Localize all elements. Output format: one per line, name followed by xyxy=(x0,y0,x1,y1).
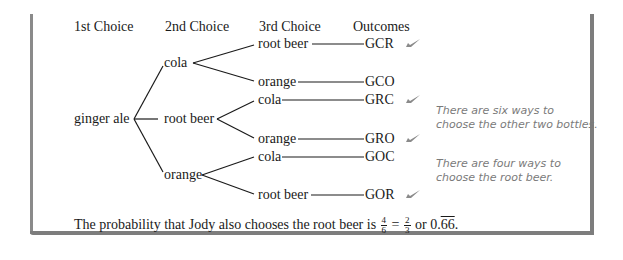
note-six-ways: There are six ways to choose the other t… xyxy=(436,104,598,132)
node-level3-root-beer: root beer xyxy=(258,36,308,52)
check-mark-icon xyxy=(405,94,421,104)
equals-sign: = xyxy=(392,217,400,232)
check-mark-icon xyxy=(405,133,421,143)
fraction-denominator: 6 xyxy=(381,226,388,235)
fraction-four-sixths: 4 6 xyxy=(381,216,388,235)
note-four-ways: There are four ways to choose the root b… xyxy=(436,157,561,185)
note-four-ways-line1: There are four ways to xyxy=(436,157,561,171)
node-level2-root-beer: root beer xyxy=(164,111,214,127)
node-level3-cola: cola xyxy=(258,92,281,108)
outcome-gor: GOR xyxy=(365,187,395,203)
or-word: or xyxy=(415,217,427,232)
probability-conclusion: The probability that Jody also chooses t… xyxy=(74,216,458,235)
node-root-ginger-ale: ginger ale xyxy=(74,111,130,127)
period: . xyxy=(455,217,459,232)
conclusion-text: The probability that Jody also chooses t… xyxy=(74,217,376,232)
decimal-value: 0.66. xyxy=(430,217,458,232)
note-four-ways-line2: choose the root beer. xyxy=(436,171,561,185)
node-level2-cola: cola xyxy=(164,55,187,71)
node-level3-orange: orange xyxy=(258,74,296,90)
node-level3-root-beer: root beer xyxy=(258,187,308,203)
fraction-denominator: 3 xyxy=(404,226,411,235)
node-level3-orange: orange xyxy=(258,131,296,147)
outcome-gro: GRO xyxy=(365,131,395,147)
decimal-integer-part: 0. xyxy=(430,217,441,232)
outcome-gcr: GCR xyxy=(365,36,394,52)
outcome-grc: GRC xyxy=(365,92,394,108)
outcome-goc: GOC xyxy=(365,149,395,165)
check-mark-icon xyxy=(405,189,421,199)
outcome-gco: GCO xyxy=(365,74,395,90)
node-level3-cola: cola xyxy=(258,149,281,165)
decimal-repeating-part: 66 xyxy=(441,217,455,232)
note-six-ways-line1: There are six ways to xyxy=(436,104,598,118)
node-level2-orange: orange xyxy=(164,167,202,183)
note-six-ways-line2: choose the other two bottles. xyxy=(436,118,598,132)
check-mark-icon xyxy=(405,38,421,48)
fraction-two-thirds: 2 3 xyxy=(404,216,411,235)
